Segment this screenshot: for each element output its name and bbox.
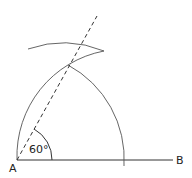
angle-label: 60°: [29, 143, 49, 156]
diagram-canvas: 60° A B: [0, 0, 192, 178]
point-b-label: B: [176, 154, 184, 167]
point-a-label: A: [9, 162, 17, 175]
construction-diagram: 60° A B: [0, 0, 192, 178]
arc-from-a-upper: [28, 43, 104, 51]
arc-centered-at-a: [68, 65, 124, 166]
dashed-bisector-line: [17, 16, 97, 160]
